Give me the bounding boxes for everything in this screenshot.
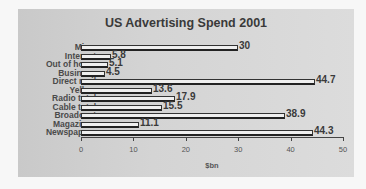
value-label: 15.5 xyxy=(163,102,182,110)
x-tick xyxy=(343,137,344,141)
bar xyxy=(81,79,315,85)
x-tick xyxy=(238,137,239,141)
x-tick xyxy=(186,137,187,141)
bar xyxy=(81,45,238,51)
x-tick-label: 30 xyxy=(228,145,248,154)
value-label: 38.9 xyxy=(286,110,305,118)
value-label: 13.6 xyxy=(153,85,172,93)
value-label: 4.5 xyxy=(106,68,120,76)
value-label: 44.3 xyxy=(314,127,333,135)
x-tick-label: 40 xyxy=(281,145,301,154)
chart-title: US Advertising Spend 2001 xyxy=(18,16,354,30)
bar xyxy=(81,130,313,136)
x-axis-line xyxy=(81,137,343,138)
x-tick xyxy=(133,137,134,141)
chart-panel: US Advertising Spend 2001 Misc.30Interne… xyxy=(18,9,354,177)
value-label: 44.7 xyxy=(316,76,335,84)
x-tick-label: 50 xyxy=(333,145,353,154)
x-tick-label: 20 xyxy=(176,145,196,154)
x-tick-label: 10 xyxy=(123,145,143,154)
bar-row: Newspapers44.3 xyxy=(18,129,354,137)
x-tick xyxy=(81,137,82,141)
value-label: 30 xyxy=(239,42,250,50)
value-label: 11.1 xyxy=(140,119,159,127)
bar xyxy=(81,113,285,119)
x-tick xyxy=(291,137,292,141)
x-axis-label: $bn xyxy=(18,161,366,170)
x-tick-label: 0 xyxy=(71,145,91,154)
